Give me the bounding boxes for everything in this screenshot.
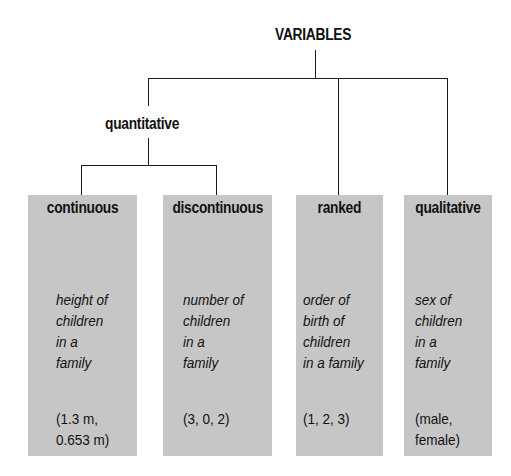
category-description: order of birth of children in a family [303,289,364,373]
connector-quantitative-horizontal [81,165,217,166]
category-example: (1.3 m, 0.653 m) [56,408,109,450]
category-example: (1, 2, 3) [303,408,350,429]
connector-root-stem [315,50,316,79]
category-description: sex of children in a family [415,289,462,373]
category-title: ranked [296,199,383,217]
connector-to-quantitative [148,78,149,106]
category-box-ranked: ranked order of birth of children in a f… [296,195,383,456]
root-label-variables: VARIABLES [275,26,351,44]
connector-quantitative-stem [148,138,149,166]
connector-to-ranked [338,78,339,195]
category-title: qualitative [404,199,492,217]
connector-to-continuous [81,165,82,195]
category-box-discontinuous: discontinuous number of children in a fa… [163,195,272,456]
connector-to-qualitative [447,78,448,195]
category-example: (male, female) [415,408,460,450]
category-description: number of children in a family [183,289,244,373]
category-box-continuous: continuous height of children in a famil… [28,195,137,456]
category-example: (3, 0, 2) [183,408,230,429]
connector-to-discontinuous [216,165,217,195]
category-title: discontinuous [163,199,272,217]
category-description: height of children in a family [56,289,108,373]
connector-root-horizontal [148,78,448,79]
intermediate-label-quantitative: quantitative [105,115,179,133]
category-box-qualitative: qualitative sex of children in a family … [404,195,492,456]
category-title: continuous [28,199,137,217]
